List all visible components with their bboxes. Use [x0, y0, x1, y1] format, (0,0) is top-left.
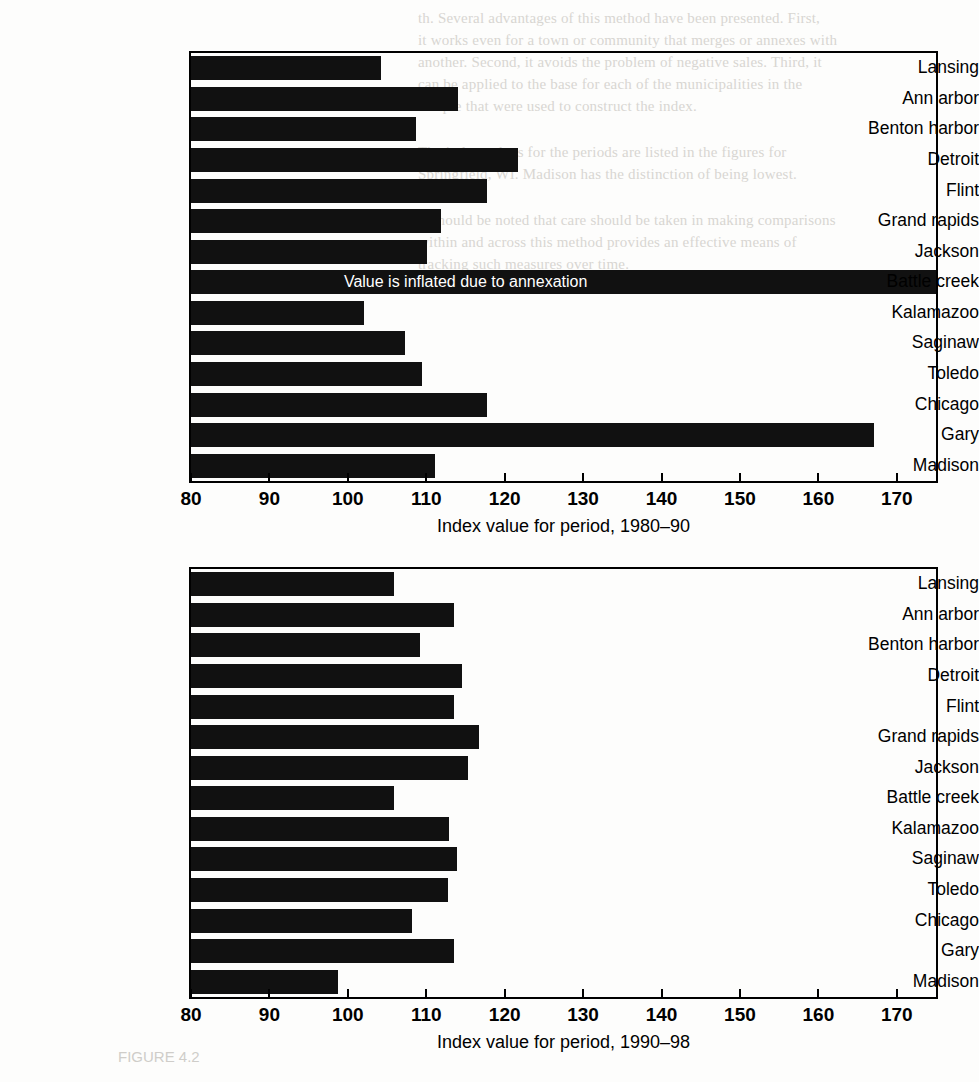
bar [191, 362, 422, 386]
category-label: Flint [798, 698, 979, 716]
x-tick [896, 473, 898, 483]
bar [191, 209, 441, 233]
bar-annotation: Value is inflated due to annexation [344, 274, 587, 290]
category-label: Jackson [798, 243, 979, 261]
x-tick-label: 170 [867, 1005, 927, 1024]
bar [191, 909, 412, 933]
x-tick [504, 989, 506, 999]
x-tick-label: 130 [553, 1005, 613, 1024]
x-tick-label: 80 [161, 489, 221, 508]
x-tick [347, 473, 349, 483]
x-tick-label: 150 [710, 1005, 770, 1024]
bar [191, 301, 364, 325]
category-label: Benton harbor [798, 120, 979, 138]
category-label: Benton harbor [798, 636, 979, 654]
bar [191, 56, 381, 80]
category-label: Battle creek [798, 273, 979, 291]
x-tick [190, 989, 192, 999]
category-label: Ann arbor [798, 606, 979, 624]
bar [191, 331, 405, 355]
category-label: Lansing [798, 575, 979, 593]
x-tick-label: 80 [161, 1005, 221, 1024]
x-tick [504, 473, 506, 483]
bar [191, 756, 468, 780]
bar [191, 664, 462, 688]
category-label: Gary [798, 426, 979, 444]
x-tick [425, 473, 427, 483]
category-label: Madison [798, 973, 979, 991]
x-tick [582, 989, 584, 999]
category-label: Kalamazoo [798, 820, 979, 838]
bar [191, 786, 394, 810]
bar [191, 572, 394, 596]
x-tick [896, 989, 898, 999]
bars-layer-2 [191, 569, 936, 997]
x-tick [347, 989, 349, 999]
category-label: Battle creek [798, 789, 979, 807]
plot-frame-1: Value is inflated due to annexation [189, 51, 938, 483]
category-label: Gary [798, 942, 979, 960]
x-tick [661, 473, 663, 483]
category-label: Flint [798, 182, 979, 200]
category-label: Detroit [798, 667, 979, 685]
bar [191, 87, 458, 111]
bars-layer-1: Value is inflated due to annexation [191, 53, 936, 481]
bar [191, 179, 487, 203]
bar [191, 454, 435, 478]
bar [191, 148, 518, 172]
x-tick-label: 120 [475, 489, 535, 508]
x-tick [661, 989, 663, 999]
x-tick-label: 120 [475, 1005, 535, 1024]
category-label: Saginaw [798, 334, 979, 352]
x-tick [425, 989, 427, 999]
bar [191, 970, 338, 994]
bar [191, 847, 457, 871]
bar [191, 393, 487, 417]
bar [191, 423, 874, 447]
x-tick [268, 473, 270, 483]
plot-frame-2 [189, 567, 938, 999]
x-tick-label: 130 [553, 489, 613, 508]
category-label: Toledo [798, 365, 979, 383]
x-tick-label: 100 [318, 489, 378, 508]
bar [191, 633, 420, 657]
x-tick-label: 160 [788, 489, 848, 508]
x-tick [268, 989, 270, 999]
category-label: Grand rapids [798, 212, 979, 230]
bar [191, 725, 479, 749]
x-tick-label: 140 [632, 489, 692, 508]
x-tick-label: 150 [710, 489, 770, 508]
x-tick-label: 110 [396, 1005, 456, 1024]
category-label: Ann arbor [798, 90, 979, 108]
x-tick [739, 989, 741, 999]
x-axis-title-1: Index value for period, 1980–90 [189, 517, 938, 535]
category-label: Chicago [798, 912, 979, 930]
category-label: Detroit [798, 151, 979, 169]
category-label: Jackson [798, 759, 979, 777]
bar [191, 817, 449, 841]
x-tick-label: 90 [239, 489, 299, 508]
bar [191, 878, 448, 902]
x-tick-label: 90 [239, 1005, 299, 1024]
category-label: Toledo [798, 881, 979, 899]
x-tick [817, 989, 819, 999]
bar [191, 695, 454, 719]
ghost-line: th. Several advantages of this method ha… [418, 8, 820, 28]
x-tick [582, 473, 584, 483]
ghost-line: it works even for a town or community th… [418, 30, 837, 50]
x-tick [739, 473, 741, 483]
bar [191, 939, 454, 963]
bar [191, 240, 427, 264]
category-label: Kalamazoo [798, 304, 979, 322]
category-label: Lansing [798, 59, 979, 77]
category-label: Chicago [798, 396, 979, 414]
x-axis-title-2: Index value for period, 1990–98 [189, 1033, 938, 1051]
x-tick [190, 473, 192, 483]
category-label: Saginaw [798, 850, 979, 868]
x-tick-label: 170 [867, 489, 927, 508]
x-tick-label: 110 [396, 489, 456, 508]
category-label: Grand rapids [798, 728, 979, 746]
x-tick [817, 473, 819, 483]
x-tick-label: 100 [318, 1005, 378, 1024]
category-label: Madison [798, 457, 979, 475]
